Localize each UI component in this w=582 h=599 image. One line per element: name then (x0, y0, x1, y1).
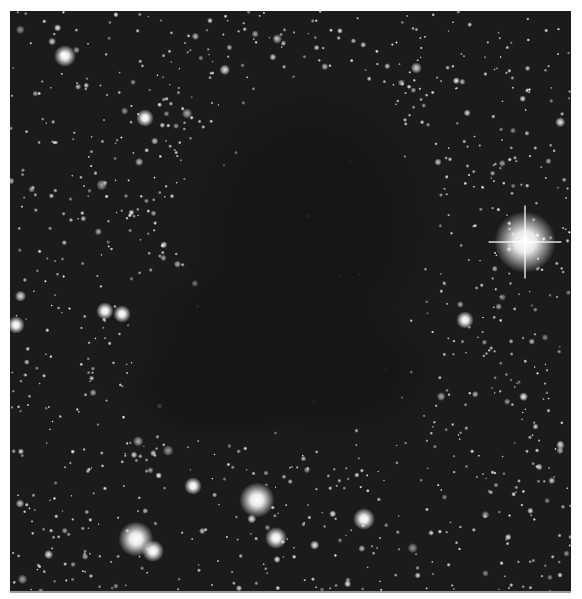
star-field (10, 11, 571, 591)
image-caption (260, 592, 570, 599)
nebula-photo (10, 11, 571, 593)
